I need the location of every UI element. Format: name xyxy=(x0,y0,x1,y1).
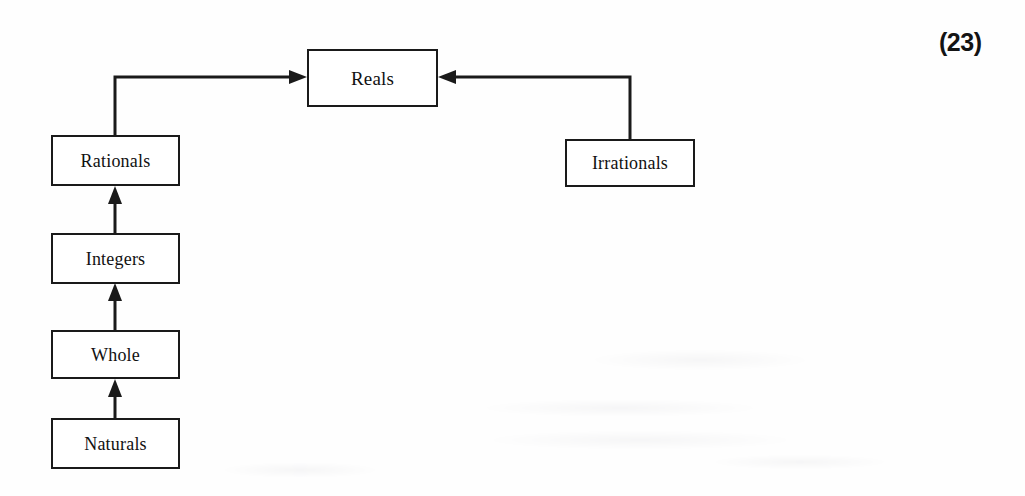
node-whole[interactable]: Whole xyxy=(51,330,180,379)
page-number-label: (23) xyxy=(939,28,981,57)
node-integers-label: Integers xyxy=(86,250,146,268)
edge-irrationals-to-reals xyxy=(438,70,630,139)
edge-whole-to-integers xyxy=(108,283,122,330)
node-naturals-label: Naturals xyxy=(84,435,147,453)
node-rationals-label: Rationals xyxy=(81,152,151,170)
node-irrationals[interactable]: Irrationals xyxy=(565,139,695,187)
diagram-canvas: Reals Rationals Integers Whole Naturals … xyxy=(0,0,1025,496)
node-rationals[interactable]: Rationals xyxy=(51,135,180,186)
node-integers[interactable]: Integers xyxy=(51,233,180,284)
node-reals-label: Reals xyxy=(351,69,394,88)
edge-integers-to-rationals xyxy=(108,186,122,233)
node-whole-label: Whole xyxy=(91,346,140,364)
edge-rationals-to-reals xyxy=(115,70,307,135)
edge-naturals-to-whole xyxy=(108,379,122,418)
node-reals[interactable]: Reals xyxy=(307,49,438,107)
node-irrationals-label: Irrationals xyxy=(592,154,668,172)
node-naturals[interactable]: Naturals xyxy=(51,418,180,469)
